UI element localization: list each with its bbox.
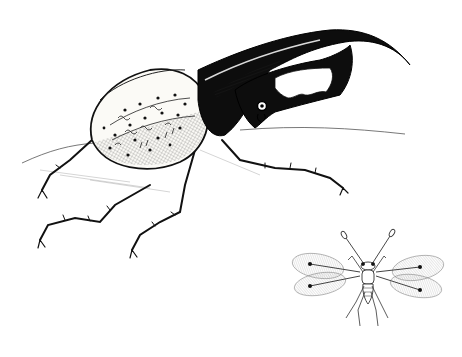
beetle-elytra	[91, 69, 209, 169]
fairyfly-antennae	[340, 228, 396, 264]
ground-lines	[22, 127, 405, 192]
beetle-illustration	[0, 0, 462, 357]
beetle-legs	[38, 140, 348, 258]
illustration-canvas	[0, 0, 462, 357]
fairyfly	[290, 228, 445, 326]
hercules-beetle	[38, 30, 410, 258]
